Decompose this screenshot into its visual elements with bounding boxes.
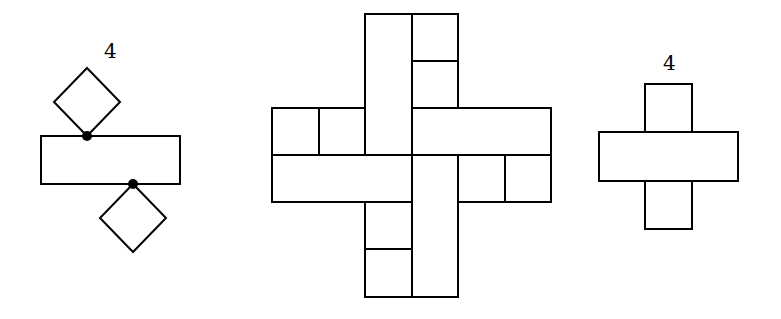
- bottom-square-1: [365, 202, 412, 249]
- cross-bottom-square: [645, 181, 692, 229]
- top-square-2: [412, 61, 458, 108]
- left-square-1: [272, 108, 319, 155]
- left-horizontal-bar: [272, 155, 412, 202]
- top-diamond: [54, 68, 120, 136]
- bottom-vertical-bar: [412, 155, 458, 297]
- bottom-square-2: [365, 249, 412, 297]
- left-figure: 4: [41, 39, 180, 252]
- bottom-diamond: [100, 184, 166, 252]
- left-square-2: [319, 108, 365, 155]
- left-figure-label: 4: [104, 39, 117, 63]
- right-figure: 4: [599, 51, 738, 229]
- top-contact-point: [82, 131, 92, 141]
- middle-figure: [272, 14, 551, 297]
- cross-top-square: [645, 84, 692, 132]
- right-horizontal-bar: [412, 108, 551, 155]
- top-square-1: [412, 14, 458, 61]
- cross-middle-bar: [599, 132, 738, 181]
- top-vertical-bar: [365, 14, 412, 155]
- right-square-2: [505, 155, 551, 202]
- left-rectangle: [41, 136, 180, 184]
- right-figure-label: 4: [663, 51, 676, 75]
- bottom-contact-point: [128, 179, 138, 189]
- figure-canvas: 4 4: [0, 0, 781, 319]
- right-square-1: [458, 155, 505, 202]
